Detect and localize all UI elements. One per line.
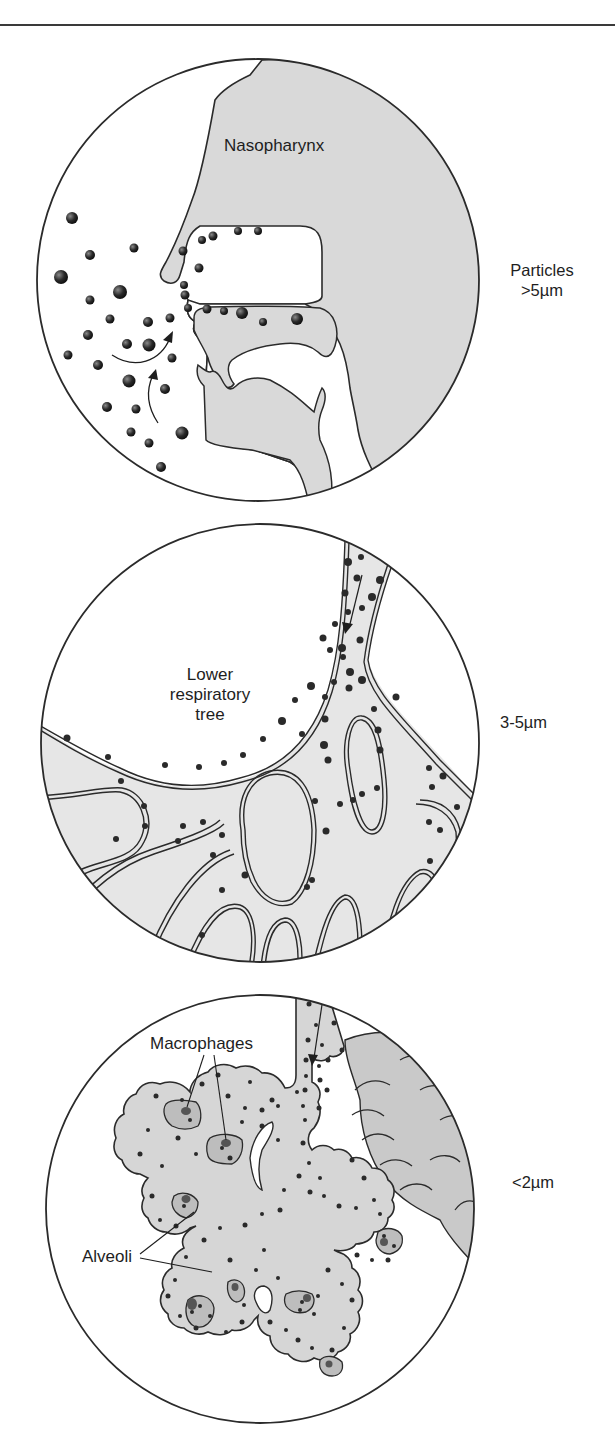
label-3-5um: 3-5µm xyxy=(500,712,580,732)
label-particles-line2: >5µm xyxy=(492,280,592,300)
label-alveoli: Alveoli xyxy=(82,1247,132,1267)
label-particles-line1: Particles xyxy=(492,260,592,280)
label-particles-gt5um: Particles >5µm xyxy=(492,260,592,300)
label-lt2um: <2µm xyxy=(512,1172,592,1192)
label-lower-line3: tree xyxy=(130,705,290,725)
label-lower-respiratory-tree: Lower respiratory tree xyxy=(130,665,290,725)
panel-lower-respiratory-tree xyxy=(30,540,500,980)
label-lower-line2: respiratory xyxy=(130,685,290,705)
label-macrophages: Macrophages xyxy=(150,1034,253,1054)
label-lower-line1: Lower xyxy=(130,665,290,685)
label-nasopharynx: Nasopharynx xyxy=(224,136,324,156)
